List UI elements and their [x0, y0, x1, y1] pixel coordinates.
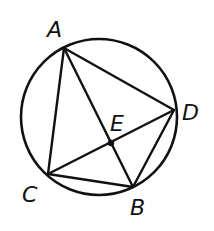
segment-ac [48, 48, 64, 174]
geometry-diagram: A D C B E [0, 0, 214, 231]
label-d: D [182, 100, 199, 125]
label-a: A [45, 17, 62, 42]
label-e: E [110, 111, 124, 136]
label-b: B [130, 195, 145, 220]
point-e-dot [108, 140, 114, 146]
label-c: C [22, 182, 38, 207]
